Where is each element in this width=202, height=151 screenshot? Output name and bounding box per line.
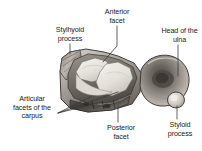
label-anterior-facet: Anterior facet (96, 8, 138, 25)
radius-body-group (60, 49, 142, 112)
anatomy-figure: Stylhyoid process Anterior facet Head of… (0, 0, 202, 151)
label-articular-facets-of-the-carpus: Articular facets of the carpus (6, 95, 58, 121)
label-stylhyoid-process: Stylhyoid process (48, 26, 92, 43)
ulna-head-group (140, 55, 189, 108)
label-head-of-the-ulna: Head of the ulna (157, 27, 202, 44)
label-posterior-facet: Posterior facet (99, 124, 143, 141)
label-styloid-process: Styloid process (160, 121, 200, 138)
